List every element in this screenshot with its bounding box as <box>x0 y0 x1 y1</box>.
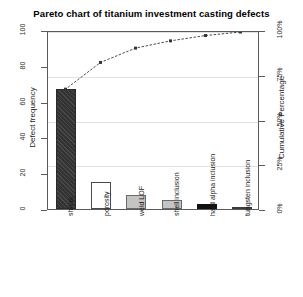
bars-layer <box>48 32 258 209</box>
y-axis-right-title: Cumulative Percentage <box>277 38 286 198</box>
y2-tick-mark <box>259 210 265 211</box>
x-tick-label: porosity <box>103 191 110 216</box>
y-tick-mark <box>41 67 47 68</box>
x-tick-label: shrink <box>67 197 74 216</box>
y-tick-mark <box>41 103 47 104</box>
y2-tick-mark <box>259 31 265 32</box>
x-tick-label: tungsten inclusion <box>244 160 251 216</box>
plot-area <box>47 31 259 210</box>
y-axis-left-title: Defect frequency <box>28 38 37 198</box>
x-tick-label: hard alpha inclusion <box>209 154 216 216</box>
y-tick-label: 0 <box>19 196 26 222</box>
pareto-chart: Pareto chart of titanium investment cast… <box>0 0 303 297</box>
chart-title: Pareto chart of titanium investment cast… <box>0 8 303 19</box>
x-tick-label: weld LOF <box>138 186 145 216</box>
y-tick-label: 100 <box>19 17 26 43</box>
y2-tick-label: 0% <box>276 194 283 224</box>
y-tick-label: 20 <box>19 160 26 186</box>
y-tick-label: 80 <box>19 52 26 78</box>
bar-shrink <box>56 89 76 209</box>
y2-tick-mark <box>259 76 265 77</box>
y-tick-mark <box>41 31 47 32</box>
x-tick-label: shell inclusion <box>173 172 180 216</box>
y-tick-label: 40 <box>19 124 26 150</box>
y-tick-mark <box>41 210 47 211</box>
y2-tick-mark <box>259 121 265 122</box>
y-tick-mark <box>41 174 47 175</box>
y-tick-label: 60 <box>19 88 26 114</box>
y2-tick-mark <box>259 165 265 166</box>
y-tick-mark <box>41 138 47 139</box>
